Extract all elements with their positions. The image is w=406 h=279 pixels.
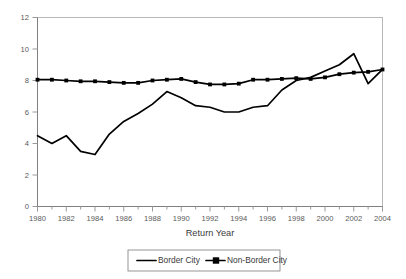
data-point-marker xyxy=(179,77,183,81)
series-non-border-city xyxy=(36,68,385,87)
y-tick-label: 6 xyxy=(25,108,29,117)
x-axis-ticks: 1980198219841986198819901992199419961998… xyxy=(29,207,391,224)
y-tick-label: 0 xyxy=(25,202,29,211)
data-point-marker xyxy=(280,77,284,81)
data-point-marker xyxy=(107,80,111,84)
data-point-marker xyxy=(309,77,313,81)
plot-frame xyxy=(37,18,383,207)
data-point-marker xyxy=(222,83,226,87)
data-point-marker xyxy=(136,81,140,85)
x-tick-label: 1992 xyxy=(202,214,219,223)
x-tick-label: 1996 xyxy=(259,214,276,223)
data-point-marker xyxy=(337,72,341,76)
legend: Border City Non-Border City xyxy=(128,250,288,271)
data-point-marker xyxy=(237,82,241,86)
y-tick-label: 8 xyxy=(25,76,29,85)
series-layer xyxy=(36,54,385,155)
data-point-marker xyxy=(208,83,212,87)
data-point-marker xyxy=(79,79,83,83)
series-border-city xyxy=(38,54,383,155)
series-line-border-city xyxy=(38,54,383,155)
x-tick-label: 1988 xyxy=(144,214,161,223)
data-point-marker xyxy=(352,71,356,75)
data-point-marker xyxy=(294,76,298,80)
y-tick-label: 12 xyxy=(21,13,29,22)
data-point-marker xyxy=(165,78,169,82)
data-point-marker xyxy=(266,78,270,82)
x-tick-label: 1980 xyxy=(29,214,46,223)
y-axis-ticks: 024681012 xyxy=(21,13,38,211)
x-tick-label: 1994 xyxy=(230,214,247,223)
data-point-marker xyxy=(122,81,126,85)
data-point-marker xyxy=(93,79,97,83)
data-point-marker xyxy=(64,79,68,83)
y-tick-label: 4 xyxy=(25,139,29,148)
data-point-marker xyxy=(36,78,40,82)
y-tick-label: 10 xyxy=(21,45,29,54)
x-tick-label: 1998 xyxy=(288,214,305,223)
data-point-marker xyxy=(194,80,198,84)
x-tick-label: 2000 xyxy=(317,214,334,223)
data-point-marker xyxy=(251,78,255,82)
x-tick-label: 1990 xyxy=(173,214,190,223)
data-point-marker xyxy=(50,78,54,82)
x-tick-label: 1986 xyxy=(115,214,132,223)
x-tick-label: 2002 xyxy=(345,214,362,223)
y-axis: 024681012 xyxy=(21,13,38,211)
x-tick-label: 2004 xyxy=(374,214,391,223)
x-tick-label: 1982 xyxy=(58,214,75,223)
data-point-marker xyxy=(151,79,155,83)
y-tick-label: 2 xyxy=(25,171,29,180)
legend-swatch-marker-non-border-city xyxy=(213,257,219,263)
data-point-marker xyxy=(366,70,370,74)
line-chart: 024681012 198019821984198619881990199219… xyxy=(0,0,406,279)
legend-label-non-border-city: Non-Border City xyxy=(227,255,288,265)
data-point-marker xyxy=(323,75,327,79)
series-line-non-border-city xyxy=(38,69,383,84)
data-point-marker xyxy=(381,68,385,72)
x-axis-title: Return Year xyxy=(186,228,235,238)
legend-label-border-city: Border City xyxy=(158,255,201,265)
chart-canvas: 024681012 198019821984198619881990199219… xyxy=(0,0,406,279)
x-axis: 1980198219841986198819901992199419961998… xyxy=(29,207,391,239)
x-tick-label: 1984 xyxy=(87,214,104,223)
